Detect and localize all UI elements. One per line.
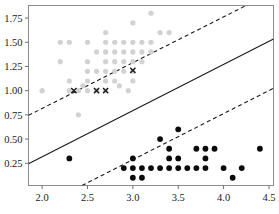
data-point (67, 78, 72, 83)
data-point (126, 88, 131, 93)
data-point (80, 83, 85, 88)
data-point (121, 165, 127, 171)
data-point (112, 49, 117, 54)
data-point (85, 69, 90, 74)
data-point (76, 112, 81, 117)
data-point (94, 49, 99, 54)
x-tick-label: 2.5 (81, 192, 94, 203)
data-point (103, 59, 108, 64)
data-point (112, 59, 117, 64)
scatter-plot-canvas: 2.02.53.03.54.04.50.250.500.751.001.251.… (0, 0, 279, 214)
data-point (139, 59, 144, 64)
data-point (175, 126, 181, 132)
plot-frame (29, 6, 274, 186)
data-point (130, 20, 135, 25)
y-tick-label: 0.25 (4, 158, 22, 169)
data-point (221, 165, 227, 171)
data-point (112, 69, 117, 74)
data-point (157, 136, 163, 142)
data-point (166, 146, 172, 152)
data-point (148, 40, 153, 45)
data-point (112, 78, 117, 83)
data-point (103, 78, 108, 83)
data-point (103, 40, 108, 45)
data-point (203, 165, 209, 171)
data-point (130, 59, 135, 64)
data-point (157, 165, 163, 171)
scatter-chart-figure: 2.02.53.03.54.04.50.250.500.751.001.251.… (0, 0, 279, 214)
data-point (193, 146, 199, 152)
data-point (139, 49, 144, 54)
data-point (58, 40, 63, 45)
data-point (58, 59, 63, 64)
y-tick-label: 1.00 (4, 85, 22, 96)
x-tick-label: 2.0 (36, 192, 49, 203)
data-point (130, 40, 135, 45)
y-tick-label: 1.50 (4, 37, 22, 48)
data-point (130, 156, 136, 162)
x-tick-label: 4.5 (262, 192, 275, 203)
y-tick-label: 1.75 (4, 13, 22, 24)
y-tick-label: 1.25 (4, 61, 22, 72)
data-point (121, 69, 126, 74)
data-point (193, 165, 199, 171)
data-point (121, 49, 126, 54)
data-point (103, 30, 108, 35)
data-point (257, 146, 263, 152)
y-tick-label: 0.75 (4, 110, 22, 121)
data-point (85, 59, 90, 64)
data-point (139, 175, 145, 181)
data-point (203, 146, 209, 152)
data-point (103, 69, 108, 74)
y-tick-label: 0.50 (4, 134, 22, 145)
data-point (148, 11, 153, 16)
data-point (148, 165, 154, 171)
x-tick-label: 3.0 (126, 192, 139, 203)
data-point (166, 165, 172, 171)
x-tick-label: 4.0 (217, 192, 230, 203)
data-point (130, 49, 135, 54)
data-point (212, 146, 218, 152)
data-point (239, 165, 245, 171)
data-point (157, 30, 162, 35)
data-point (167, 30, 172, 35)
data-point (85, 40, 90, 45)
data-point (117, 83, 122, 88)
data-point (130, 165, 136, 171)
data-point (139, 165, 145, 171)
data-point (103, 49, 108, 54)
x-tick-label: 3.5 (172, 192, 185, 203)
data-point (121, 59, 126, 64)
data-point (67, 40, 72, 45)
data-point (175, 165, 181, 171)
data-point (175, 156, 181, 162)
data-point (184, 165, 190, 171)
data-point (94, 69, 99, 74)
data-point (130, 175, 136, 181)
data-point (40, 88, 45, 93)
data-point (121, 40, 126, 45)
data-point (85, 88, 90, 93)
data-point (203, 156, 209, 162)
data-point (112, 40, 117, 45)
data-point (130, 78, 135, 83)
data-point (148, 49, 153, 54)
data-point (166, 156, 172, 162)
data-point (85, 78, 90, 83)
data-point (66, 156, 72, 162)
data-point (139, 40, 144, 45)
data-point (230, 175, 236, 181)
